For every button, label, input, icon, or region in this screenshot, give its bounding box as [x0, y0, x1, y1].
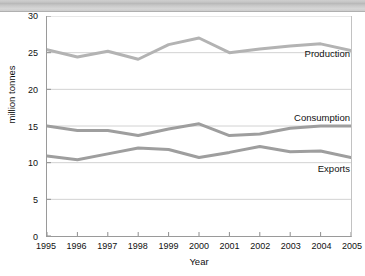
series-line-exports [47, 147, 351, 160]
series-label-production: Production [305, 47, 350, 58]
y-axis-tick-label: 10 [28, 158, 38, 168]
x-axis-tick-label: 2002 [250, 241, 270, 251]
x-axis-tick-label: 2003 [281, 241, 301, 251]
x-axis-title: Year [46, 256, 352, 267]
x-axis-tick-label: 1999 [158, 241, 178, 251]
series-label-consumption: Consumption [294, 111, 350, 122]
x-axis-tick-label: 1996 [67, 241, 87, 251]
y-axis-tick-label: 20 [28, 85, 38, 95]
x-axis-tick-label: 1997 [97, 241, 117, 251]
y-axis-tick-label: 15 [28, 122, 38, 132]
y-axis-tick-label: 25 [28, 48, 38, 58]
y-axis-title: million tonnes [6, 45, 17, 145]
x-axis-tick-label: 1995 [36, 241, 56, 251]
x-axis-tick-labels: 1995199619971998199920002001200220032004… [46, 241, 352, 255]
y-axis-tick-label: 5 [33, 195, 38, 205]
x-axis-tick-label: 2005 [342, 241, 362, 251]
x-axis-tick-label: 2000 [189, 241, 209, 251]
x-axis-tick-label: 2004 [311, 241, 331, 251]
x-axis-tick-label: 1998 [128, 241, 148, 251]
line-chart: 051015202530 199519961997199819992000200… [0, 11, 365, 276]
y-axis-tick-label: 30 [28, 11, 38, 21]
x-axis-tick-marks [47, 232, 351, 236]
x-axis-tick-label: 2001 [220, 241, 240, 251]
series-label-exports: Exports [318, 163, 350, 174]
